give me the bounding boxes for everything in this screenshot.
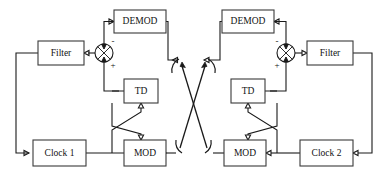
- block-left-td-label: TD: [135, 86, 148, 96]
- wireless-channel-crosslinks: [180, 62, 207, 148]
- block-left-mod-label: MOD: [134, 148, 156, 158]
- block-left-clock[interactable]: Clock 1: [33, 140, 86, 166]
- wire-right-sum-to-filter: [295, 50, 307, 55]
- block-left-demod[interactable]: DEMOD: [114, 10, 166, 33]
- wire-left-sum-to-filter: [84, 50, 95, 55]
- wire-right-filter-to-clock2: [353, 53, 372, 156]
- block-right-filter-label: Filter: [320, 48, 341, 58]
- block-right-clock[interactable]: Clock 2: [300, 140, 353, 166]
- right-sum-minus-label: -: [276, 36, 279, 46]
- block-left-filter-label: Filter: [51, 48, 72, 58]
- block-right-demod[interactable]: DEMOD: [222, 10, 274, 33]
- left-sum-plus-label: +: [110, 60, 115, 70]
- left-sum-minus-label: -: [112, 36, 115, 46]
- block-right-clock-label: Clock 2: [312, 148, 342, 158]
- block-left-td[interactable]: TD: [124, 79, 158, 103]
- block-right-filter[interactable]: Filter: [307, 41, 353, 65]
- block-right-mod-label: MOD: [234, 148, 256, 158]
- block-left-demod-label: DEMOD: [123, 16, 158, 26]
- block-right-mod[interactable]: MOD: [224, 140, 266, 166]
- block-left-filter[interactable]: Filter: [38, 41, 84, 65]
- block-diagram-figure: - + - + Filter DEMOD TD Clock 1: [0, 0, 387, 181]
- block-right-demod-label: DEMOD: [231, 16, 266, 26]
- summing-junction-right: - +: [274, 36, 295, 70]
- block-right-td-label: TD: [242, 86, 255, 96]
- block-left-clock-label: Clock 1: [45, 148, 75, 158]
- diagram-canvas: - + - + Filter DEMOD TD Clock 1: [0, 0, 387, 181]
- right-sum-plus-label: +: [274, 60, 279, 70]
- block-right-td[interactable]: TD: [231, 79, 265, 103]
- block-left-mod[interactable]: MOD: [124, 140, 166, 166]
- summing-junction-left: - +: [95, 36, 116, 70]
